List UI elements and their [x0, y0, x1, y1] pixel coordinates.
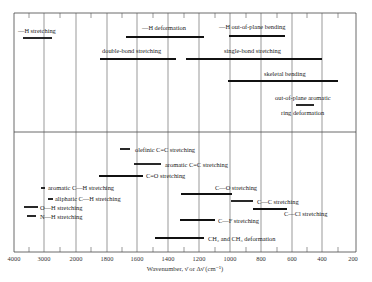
x-tick-labels: 4000 3000 2000 1800 1600 1400 1200 1000 …	[8, 255, 358, 262]
band-label: O—H stretching	[40, 204, 83, 211]
band-label: aromatic C—H stretching	[48, 184, 115, 191]
x-tick: 800	[256, 255, 266, 262]
band-label: —H stretching	[17, 27, 57, 34]
x-tick: 200	[348, 255, 358, 262]
x-tick: 1000	[224, 255, 237, 262]
band-label: C—Cl stretching	[284, 210, 328, 217]
x-tick: 400	[317, 255, 327, 262]
x-tick: 4000	[8, 255, 21, 262]
band-label: single-bond stretching	[224, 47, 282, 54]
x-tick: 600	[287, 255, 297, 262]
band-label: C—C stretching	[257, 198, 300, 205]
x-tick: 1200	[193, 255, 206, 262]
x-tick: 1400	[162, 255, 175, 262]
x-tick: 1600	[131, 255, 144, 262]
x-axis-label: Wavenumber, ν̄ or Δν̄ (cm⁻¹)	[147, 265, 224, 273]
band-label: olefinic C=C stretching	[135, 146, 196, 153]
band-label: skeletal bending	[264, 70, 307, 77]
band-label: N—H stretching	[40, 213, 83, 220]
x-tick: 3000	[38, 255, 51, 262]
band-label: aromatic C=C stretching	[165, 161, 229, 168]
band-label: C—O stretching	[215, 184, 258, 191]
band-label: CH₂ and CH₃ deformation	[208, 235, 276, 242]
band-label: C—F stretching	[218, 217, 260, 224]
band-label: ring deformation	[281, 109, 325, 116]
x-tick: 1800	[101, 255, 114, 262]
lower-bands	[24, 149, 287, 238]
band-label: double-bond stretching	[102, 47, 162, 54]
band-label: aliphatic C—H stretching	[55, 195, 121, 202]
band-label: —H out-of-plane bending	[218, 23, 286, 30]
band-label: —H deformation	[141, 24, 187, 31]
band-label: out-of-plane aromatic	[275, 94, 331, 101]
band-label: C=O stretching	[146, 172, 186, 179]
ir-correlation-chart: 4000 3000 2000 1800 1600 1400 1200 1000 …	[0, 0, 372, 282]
x-tick: 2000	[70, 255, 83, 262]
